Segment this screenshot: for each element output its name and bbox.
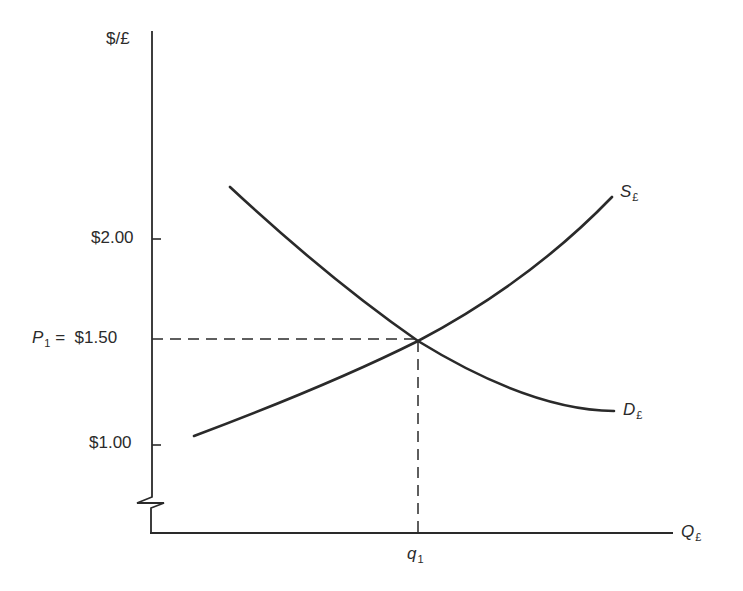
y-axis-label: $/£ xyxy=(106,29,130,49)
price-value: = $1.50 xyxy=(50,328,117,347)
x-axis-label-main: Q xyxy=(681,522,694,541)
supply-subscript: £ xyxy=(632,191,638,203)
x-axis-label: Q£ xyxy=(681,522,701,542)
x-axis-label-sub: £ xyxy=(695,531,701,543)
quantity-symbol: q xyxy=(407,544,416,563)
demand-symbol: D xyxy=(623,400,635,419)
tick-label-150: P1 = $1.50 xyxy=(32,328,117,348)
demand-curve xyxy=(230,187,614,411)
price-subscript: 1 xyxy=(44,337,50,349)
supply-demand-diagram xyxy=(0,0,743,591)
tick-label-100: $1.00 xyxy=(89,433,132,453)
supply-symbol: S xyxy=(620,182,631,201)
quantity-subscript: 1 xyxy=(417,553,423,565)
demand-subscript: £ xyxy=(636,409,642,421)
quantity-label: q1 xyxy=(407,544,424,564)
y-axis xyxy=(137,31,164,533)
tick-label-200: $2.00 xyxy=(91,228,134,248)
price-symbol: P xyxy=(32,328,43,347)
demand-label: D£ xyxy=(623,400,642,420)
supply-label: S£ xyxy=(620,182,638,202)
